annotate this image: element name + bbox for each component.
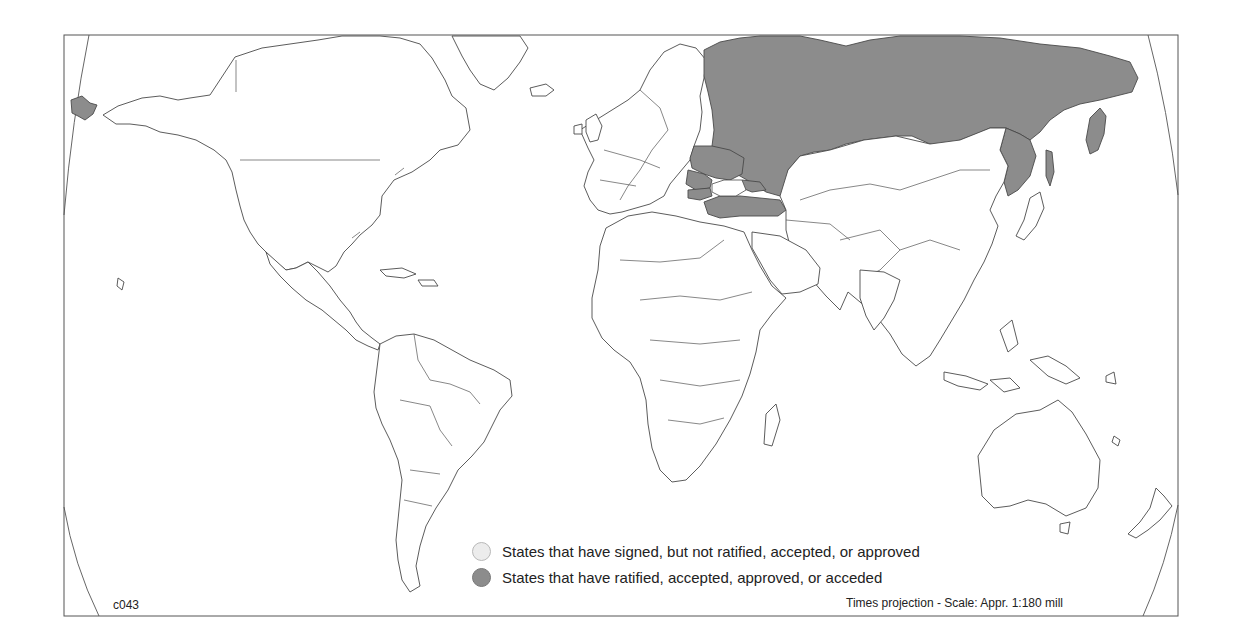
region-indonesia [944,320,1080,392]
region-new-zealand [1128,488,1172,538]
legend-swatch-dark-circle-icon [472,568,491,587]
region-europe [530,44,706,214]
region-british-isles [574,114,602,142]
region-north-america [103,36,528,350]
region-tasmania [1060,522,1070,534]
legend-item-signed: States that have signed, but not ratifie… [472,538,920,564]
legend: States that have signed, but not ratifie… [472,538,920,590]
legend-label: States that have signed, but not ratifie… [502,543,920,560]
projection-scale-label: Times projection - Scale: Appr. 1:180 mi… [846,596,1063,610]
region-iceland [530,84,554,96]
region-russia-kamchatka [1086,108,1106,154]
region-bulgaria [688,188,712,200]
region-madagascar [764,404,780,446]
region-japan [1016,192,1044,240]
black-sea [712,180,746,196]
region-australia [978,400,1100,516]
legend-swatch-light-circle-icon [472,542,491,561]
region-turkey [704,196,786,218]
projection-arc-left [64,35,99,616]
map-code-label: c043 [113,598,139,612]
region-russia-sakhalin [1046,150,1054,186]
legend-item-ratified: States that have ratified, accepted, app… [472,564,920,590]
legend-label: States that have ratified, accepted, app… [502,569,882,586]
region-greenland [452,36,528,90]
